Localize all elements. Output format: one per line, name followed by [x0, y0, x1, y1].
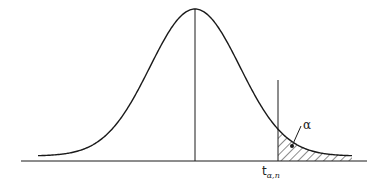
alpha-leader-line: [292, 126, 301, 146]
critical-value-subscript: α,n: [267, 171, 280, 180]
shaded-tail-area: [278, 129, 352, 161]
t-distribution-figure: [0, 0, 385, 180]
critical-value-label: tα,n: [262, 164, 280, 180]
alpha-label: α: [303, 118, 311, 132]
alpha-pointer-dot: [290, 144, 294, 148]
